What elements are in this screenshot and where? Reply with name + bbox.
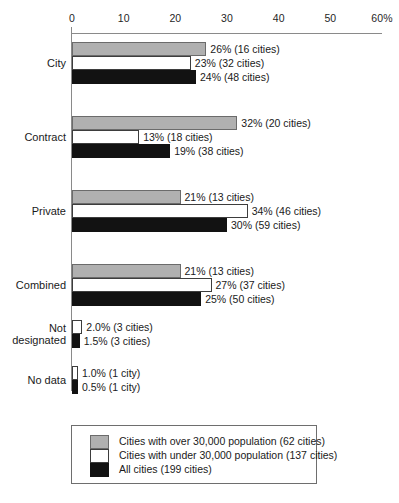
figure-caption-clipped (0, 494, 399, 503)
bar-value-label: 21% (13 cities) (181, 190, 254, 204)
legend-swatch-over (90, 435, 109, 449)
bar-value-label: 19% (38 cities) (170, 144, 243, 158)
bar (72, 70, 196, 84)
bar (72, 42, 206, 56)
category-label: No data (0, 374, 66, 387)
bar (72, 334, 80, 348)
bar-row: 13% (18 cities) (72, 130, 392, 144)
x-axis-tick-label: 40 (273, 12, 285, 24)
legend-swatch-under (90, 449, 109, 463)
bar (72, 190, 181, 204)
bar-value-label: 21% (13 cities) (181, 264, 254, 278)
bar-value-label: 1.5% (3 cities) (80, 334, 151, 348)
legend-label: Cities with over 30,000 population (62 c… (119, 434, 315, 448)
bar-value-label: 25% (50 cities) (201, 292, 274, 306)
bar-row: 26% (16 cities) (72, 42, 392, 56)
x-axis-tick-label: 60% (371, 12, 392, 24)
x-axis-tick-label: 50 (324, 12, 336, 24)
bar (72, 116, 237, 130)
bar-group: Private21% (13 cities)34% (46 cities)30%… (0, 190, 399, 232)
bar (72, 264, 181, 278)
x-axis-tick-label: 0 (69, 12, 75, 24)
bar (72, 56, 191, 70)
bar-row: 0.5% (1 city) (72, 380, 392, 394)
bar (72, 204, 248, 218)
bar-group: City26% (16 cities)23% (32 cities)24% (4… (0, 42, 399, 84)
bar-row: 30% (59 cities) (72, 218, 392, 232)
legend-label-column: Cities with over 30,000 population (62 c… (119, 434, 315, 476)
bar (72, 320, 82, 334)
bar (72, 144, 170, 158)
bar-value-label: 26% (16 cities) (206, 42, 279, 56)
bar-value-label: 2.0% (3 cities) (82, 320, 153, 334)
category-label: City (0, 57, 66, 70)
x-axis-tick-label: 20 (169, 12, 181, 24)
bar-value-label: 32% (20 cities) (237, 116, 310, 130)
bar-row: 1.5% (3 cities) (72, 334, 392, 348)
bar-value-label: 1.0% (1 city) (78, 366, 140, 380)
bar-row: 24% (48 cities) (72, 70, 392, 84)
bar-group: No data1.0% (1 city)0.5% (1 city) (0, 366, 399, 394)
bar-value-label: 24% (48 cities) (196, 70, 269, 84)
bar-group: Combined21% (13 cities)27% (37 cities)25… (0, 264, 399, 306)
category-label: Private (0, 205, 66, 218)
bar-value-label: 0.5% (1 city) (78, 380, 140, 394)
legend-label: All cities (199 cities) (119, 462, 315, 476)
bar (72, 130, 139, 144)
x-axis-line (71, 33, 382, 34)
bar-row: 23% (32 cities) (72, 56, 392, 70)
bar (72, 292, 201, 306)
category-label: Not designated (0, 322, 66, 347)
bar (72, 278, 212, 292)
x-axis-tick-label: 10 (118, 12, 130, 24)
bar-row: 27% (37 cities) (72, 278, 392, 292)
chart-legend: Cities with over 30,000 population (62 c… (71, 425, 317, 484)
category-label: Contract (0, 131, 66, 144)
legend-label: Cities with under 30,000 population (137… (119, 448, 315, 462)
bar-value-label: 34% (46 cities) (248, 204, 321, 218)
bar-row: 21% (13 cities) (72, 190, 392, 204)
bar-row: 25% (50 cities) (72, 292, 392, 306)
bar (72, 218, 227, 232)
legend-swatch-all (90, 463, 109, 477)
bar-value-label: 30% (59 cities) (227, 218, 300, 232)
bar-row: 34% (46 cities) (72, 204, 392, 218)
bar-row: 2.0% (3 cities) (72, 320, 392, 334)
bar-group: Contract32% (20 cities)13% (18 cities)19… (0, 116, 399, 158)
bar-row: 19% (38 cities) (72, 144, 392, 158)
legend-swatch-column (90, 435, 109, 477)
bar-row: 21% (13 cities) (72, 264, 392, 278)
bar-value-label: 13% (18 cities) (139, 130, 212, 144)
bar-value-label: 27% (37 cities) (212, 278, 285, 292)
bar-row: 32% (20 cities) (72, 116, 392, 130)
bar-group: Not designated2.0% (3 cities)1.5% (3 cit… (0, 320, 399, 348)
bar-row: 1.0% (1 city) (72, 366, 392, 380)
bar-value-label: 23% (32 cities) (191, 56, 264, 70)
x-axis-tick-label: 30 (221, 12, 233, 24)
category-label: Combined (0, 279, 66, 292)
bar-chart: 0102030405060% City26% (16 cities)23% (3… (0, 0, 399, 503)
